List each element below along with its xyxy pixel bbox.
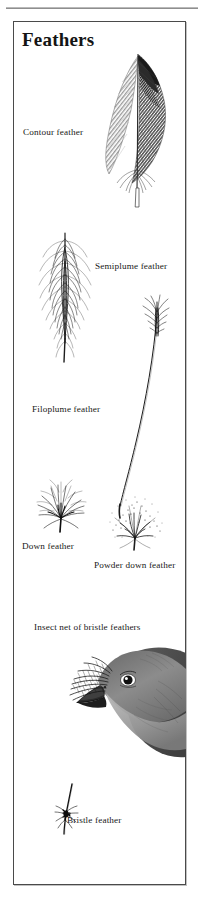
label-semiplume-feather: Semiplume feather — [95, 262, 167, 271]
label-down-feather: Down feather — [22, 542, 74, 551]
label-contour-feather: Contour feather — [23, 128, 83, 137]
label-powder-down-feather: Powder down feather — [94, 561, 175, 570]
label-insect-net-of-bristle-feathers: Insect net of bristle feathers — [34, 623, 141, 632]
filoplume-feather-illustration — [110, 292, 170, 522]
powder-down-feather-illustration — [104, 492, 166, 554]
page-title: Feathers — [22, 30, 94, 49]
down-feather-illustration — [30, 474, 92, 536]
contour-feather-illustration — [98, 50, 172, 210]
label-bristle-feather: Bristle feather — [67, 816, 122, 825]
bird-head-illustration — [62, 637, 186, 767]
top-rule-divider — [6, 7, 198, 9]
plate-inner: Feathers — [14, 22, 185, 884]
plate-page: Feathers — [0, 0, 201, 907]
label-filoplume-feather: Filoplume feather — [32, 405, 100, 414]
plate-frame: Feathers — [13, 21, 186, 885]
bristle-feather-illustration — [52, 782, 86, 836]
semiplume-feather-illustration — [32, 227, 98, 367]
